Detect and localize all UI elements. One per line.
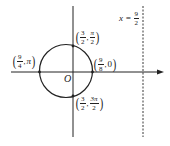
theta-value: 0: [108, 59, 113, 69]
frac-num: 9: [98, 56, 104, 65]
frac-num: 9: [17, 53, 23, 62]
frac-den: 2: [135, 19, 139, 27]
point-left: [38, 71, 41, 74]
frac-num: 3π: [90, 95, 99, 104]
paren-close: ): [96, 30, 100, 45]
asymptote-fraction: 9 2: [134, 10, 140, 27]
x-axis-arrow-icon: [157, 70, 164, 75]
paren-open: (: [76, 30, 80, 45]
label-point-top: (32,π2): [75, 29, 100, 46]
theta-fraction: 3π2: [90, 95, 99, 112]
label-point-bottom: (32,3π2): [75, 95, 104, 112]
paren-open: (: [13, 54, 17, 69]
asymptote-label: x = 9 2: [119, 10, 139, 27]
origin-label: O: [64, 74, 71, 84]
r-fraction: 94: [17, 53, 23, 70]
frac-den: 2: [92, 104, 96, 112]
asymptote-lhs: x =: [119, 13, 131, 23]
frac-num: 3: [80, 95, 86, 104]
r-fraction: 32: [80, 29, 86, 46]
theta-value: π: [27, 56, 32, 66]
theta-fraction: π2: [90, 29, 96, 46]
label-point-left: (94,π): [12, 53, 36, 70]
frac-den: 8: [99, 65, 103, 73]
paren-close: ): [113, 57, 117, 72]
paren-open: (: [76, 96, 80, 111]
point-bottom: [72, 95, 75, 98]
frac-den: 2: [81, 104, 85, 112]
circle-curve: [40, 45, 93, 98]
paren-open: (: [94, 57, 98, 72]
paren-close: ): [99, 96, 103, 111]
paren-close: ): [32, 54, 36, 69]
frac-den: 4: [18, 62, 22, 70]
frac-num: π: [90, 29, 96, 38]
label-point-right: (98,0): [93, 56, 117, 73]
frac-num: 3: [80, 29, 86, 38]
point-top: [72, 45, 75, 48]
frac-num: 9: [134, 10, 140, 19]
r-fraction: 32: [80, 95, 86, 112]
diagram-canvas: [0, 0, 170, 146]
r-fraction: 98: [98, 56, 104, 73]
frac-den: 2: [91, 38, 95, 46]
frac-den: 2: [81, 38, 85, 46]
